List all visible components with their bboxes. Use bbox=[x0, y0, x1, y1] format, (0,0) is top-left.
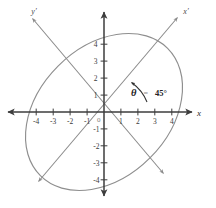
x-tick-label--4: -4 bbox=[33, 117, 39, 126]
y-tick-label-4: 4 bbox=[94, 40, 98, 49]
x-prime-axis-label: x′ bbox=[182, 7, 189, 16]
x-tick-label--2: -2 bbox=[67, 117, 73, 126]
equals-sign: = bbox=[143, 89, 148, 98]
x-tick-label-2: 2 bbox=[136, 117, 140, 126]
ellipse-curve bbox=[0, 2, 214, 208]
y-tick-label--4: -4 bbox=[93, 176, 99, 185]
x-tick-label-1: 1 bbox=[119, 117, 123, 126]
x-tick-label--1: -1 bbox=[84, 117, 90, 126]
x-prime-axis-line bbox=[39, 18, 178, 182]
angle-annotation: θ = 45° bbox=[131, 82, 167, 99]
y-prime-axis-label: y′ bbox=[30, 7, 37, 16]
y-tick-label-3: 3 bbox=[94, 57, 98, 66]
y-tick-label-2: 2 bbox=[94, 74, 98, 83]
x-tick-label-3: 3 bbox=[153, 117, 157, 126]
x-axis-label: x bbox=[196, 108, 201, 118]
angle-value: 45° bbox=[155, 88, 167, 98]
origin-label: 0 bbox=[97, 116, 101, 124]
y-tick-label--3: -3 bbox=[93, 159, 99, 168]
y-tick-label--1: -1 bbox=[93, 125, 99, 134]
graph-svg: -4 -3 -2 -1 1 2 3 4 4 3 2 1 -1 -2 -3 -4 … bbox=[0, 0, 216, 208]
y-tick-label-1: 1 bbox=[94, 91, 98, 100]
theta-symbol: θ bbox=[131, 87, 137, 98]
x-tick-label-4: 4 bbox=[170, 117, 174, 126]
x-tick-label--3: -3 bbox=[50, 117, 56, 126]
ellipse-rotation-figure: -4 -3 -2 -1 1 2 3 4 4 3 2 1 -1 -2 -3 -4 … bbox=[0, 0, 216, 208]
y-tick-label--2: -2 bbox=[93, 142, 99, 151]
